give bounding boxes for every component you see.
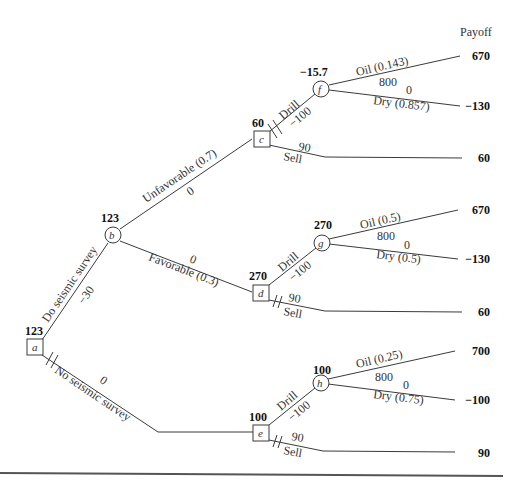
cost-h-oil: 800 — [375, 370, 393, 384]
node-c-value: 60 — [252, 116, 264, 130]
node-h-id: h — [317, 377, 323, 389]
payoff-value: 60 — [478, 305, 490, 319]
branch-unfavorable — [120, 139, 252, 229]
node-a-id: a — [32, 341, 38, 353]
label-e-sell: Sell — [282, 443, 303, 460]
node-c: c 60 — [252, 116, 270, 147]
node-d-value: 270 — [249, 269, 267, 283]
label-c-sell: Sell — [282, 149, 303, 166]
label-favorable: Favorable (0.3) — [147, 250, 221, 290]
node-b-id: b — [109, 229, 115, 241]
label-g-dry: Dry (0.5) — [376, 247, 422, 266]
node-b: b 123 — [101, 211, 121, 243]
payoff-header: Payoff — [460, 25, 492, 39]
node-a: a 123 — [25, 324, 43, 355]
payoff-value: 670 — [472, 49, 490, 63]
node-d: d 270 — [249, 269, 269, 301]
node-b-value: 123 — [101, 211, 119, 225]
payoff-value: −130 — [465, 252, 490, 266]
node-g-id: g — [318, 237, 324, 249]
cost-f-dry: 0 — [406, 83, 412, 97]
decision-tree: Payoff a 123 — [0, 0, 519, 494]
label-do-seismic-survey: Do seismic survey — [39, 243, 100, 324]
payoff-value: 60 — [478, 151, 490, 165]
prune-mark-no-seismic — [46, 352, 58, 368]
node-a-value: 123 — [25, 324, 43, 338]
payoff-value: −130 — [465, 99, 490, 113]
payoff-value: −100 — [465, 393, 490, 407]
payoff-value: 700 — [472, 344, 490, 358]
node-g: g 270 — [314, 218, 332, 251]
cost-g-oil: 800 — [377, 229, 395, 243]
cost-d-sell: 90 — [287, 290, 301, 306]
label-d-sell: Sell — [282, 304, 303, 321]
node-e-id: e — [258, 427, 263, 439]
label-h-dry: Dry (0.75) — [373, 387, 425, 407]
node-g-value: 270 — [314, 218, 332, 232]
node-f-value: −15.7 — [300, 65, 328, 79]
cost-unfavorable: 0 — [184, 184, 197, 199]
cost-f-oil: 800 — [379, 75, 397, 89]
node-h-value: 100 — [313, 363, 331, 377]
bottom-rule-divider — [0, 473, 503, 476]
label-unfavorable: Unfavorable (0.7) — [140, 146, 219, 206]
cost-no-seismic-survey: 0 — [97, 373, 110, 388]
payoff-value: 90 — [478, 446, 490, 460]
node-d-id: d — [258, 287, 264, 299]
cost-e-sell: 90 — [290, 429, 304, 445]
label-no-seismic-survey: No seismic survey — [52, 363, 133, 424]
label-f-dry: Dry (0.857) — [373, 93, 431, 114]
payoff-value: 670 — [472, 203, 490, 217]
branch-do-seismic-survey — [42, 243, 108, 340]
node-f: f −15.7 — [300, 65, 329, 97]
node-e: e 100 — [249, 410, 269, 441]
node-e-value: 100 — [249, 410, 267, 424]
node-h: h 100 — [313, 363, 331, 391]
cost-favorable: 0 — [188, 252, 199, 267]
branch-no-seismic-survey — [42, 355, 253, 432]
node-c-id: c — [259, 133, 264, 145]
